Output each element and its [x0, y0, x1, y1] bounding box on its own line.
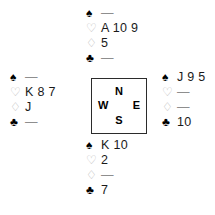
hand-north-diamond-row: ♢ 5 — [86, 36, 138, 51]
diamond-icon: ♢ — [86, 36, 99, 51]
diamond-icon: ♢ — [10, 100, 23, 115]
hand-west-spade-row: ♠ — — [10, 70, 56, 85]
hand-south-hearts: 2 — [99, 153, 108, 168]
diamond-icon: ♢ — [162, 100, 175, 115]
hand-east-spade-row: ♠ J 9 5 — [162, 70, 206, 85]
spade-icon: ♠ — [86, 6, 99, 21]
club-icon: ♣ — [86, 183, 99, 198]
hand-north-spade-row: ♠ — — [86, 6, 138, 21]
hand-west-diamonds: J — [23, 100, 32, 115]
hand-north-clubs: — — [99, 51, 114, 66]
hand-north-diamonds: 5 — [99, 36, 108, 51]
hand-west-spades: — — [23, 70, 38, 85]
hand-north-heart-row: ♡ A 10 9 — [86, 21, 138, 36]
hand-north: ♠ — ♡ A 10 9 ♢ 5 ♣ — — [86, 6, 138, 66]
hand-south-diamond-row: ♢ — — [86, 168, 128, 183]
compass-east-label: E — [133, 100, 140, 111]
hand-south-clubs: 7 — [99, 183, 108, 198]
hand-east-hearts: — — [175, 85, 190, 100]
hand-south-club-row: ♣ 7 — [86, 183, 128, 198]
hand-west-diamond-row: ♢ J — [10, 100, 56, 115]
spade-icon: ♠ — [10, 70, 23, 85]
hand-north-spades: — — [99, 6, 114, 21]
hand-north-hearts: A 10 9 — [99, 21, 138, 36]
hand-north-club-row: ♣ — — [86, 51, 138, 66]
hand-west-hearts: K 8 7 — [23, 85, 56, 100]
heart-icon: ♡ — [86, 21, 99, 36]
hand-east-club-row: ♣ 10 — [162, 115, 206, 130]
bridge-deal-diagram: ♠ — ♡ A 10 9 ♢ 5 ♣ — ♠ — ♡ K 8 7 ♢ J — [0, 0, 215, 215]
club-icon: ♣ — [162, 115, 175, 130]
hand-east-diamond-row: ♢ — — [162, 100, 206, 115]
hand-south-heart-row: ♡ 2 — [86, 153, 128, 168]
hand-south-diamonds: — — [99, 168, 114, 183]
club-icon: ♣ — [10, 115, 23, 130]
club-icon: ♣ — [86, 51, 99, 66]
heart-icon: ♡ — [10, 85, 23, 100]
hand-east: ♠ J 9 5 ♡ — ♢ — ♣ 10 — [162, 70, 206, 130]
hand-west-club-row: ♣ — — [10, 115, 56, 130]
hand-west: ♠ — ♡ K 8 7 ♢ J ♣ — — [10, 70, 56, 130]
hand-east-diamonds: — — [175, 100, 190, 115]
spade-icon: ♠ — [162, 70, 175, 85]
hand-south-spades: K 10 — [99, 138, 128, 153]
hand-east-clubs: 10 — [175, 115, 192, 130]
compass-south-label: S — [92, 115, 146, 126]
compass-west-label: W — [98, 100, 108, 111]
hand-east-heart-row: ♡ — — [162, 85, 206, 100]
compass-north-label: N — [92, 86, 146, 97]
compass-box: N W E S — [91, 78, 147, 134]
heart-icon: ♡ — [162, 85, 175, 100]
hand-west-clubs: — — [23, 115, 38, 130]
hand-south: ♠ K 10 ♡ 2 ♢ — ♣ 7 — [86, 138, 128, 198]
heart-icon: ♡ — [86, 153, 99, 168]
hand-east-spades: J 9 5 — [175, 70, 206, 85]
diamond-icon: ♢ — [86, 168, 99, 183]
spade-icon: ♠ — [86, 138, 99, 153]
hand-west-heart-row: ♡ K 8 7 — [10, 85, 56, 100]
hand-south-spade-row: ♠ K 10 — [86, 138, 128, 153]
